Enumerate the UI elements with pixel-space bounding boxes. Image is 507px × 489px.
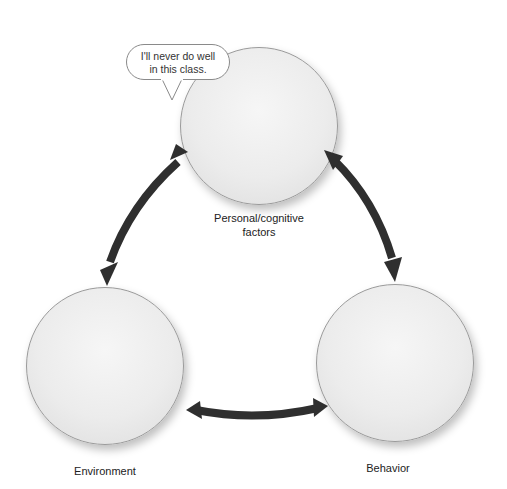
speech-bubble-tail	[0, 0, 507, 489]
reciprocal-determinism-diagram: I'll never do well in this class. Person…	[0, 0, 507, 489]
